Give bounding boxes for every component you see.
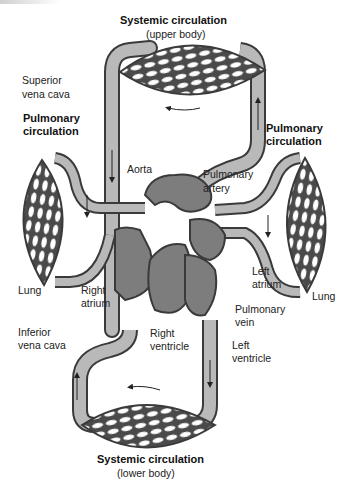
flow-arrow-left-lower bbox=[130, 386, 160, 390]
pulmonary-circulation-left-1: Pulmonary bbox=[23, 112, 80, 125]
pulmonary-circulation-right-2: circulation bbox=[266, 135, 322, 148]
left-lung-capillaries bbox=[23, 160, 62, 285]
right-atrium-label-1: Right bbox=[81, 284, 106, 297]
pulmonary-vein-label-2: vein bbox=[235, 316, 254, 329]
lung-left-label: Lung bbox=[18, 284, 41, 297]
aorta-label: Aorta bbox=[127, 163, 152, 176]
heart bbox=[115, 175, 225, 316]
lung-right-label: Lung bbox=[312, 290, 335, 303]
pulmonary-circulation-right-1: Pulmonary bbox=[266, 122, 323, 135]
inferior-vena-cava-label-2: vena cava bbox=[18, 339, 66, 352]
pulmonary-vein-label-1: Pulmonary bbox=[235, 303, 285, 316]
systemic-lower-title: Systemic circulation bbox=[97, 453, 204, 466]
right-atrium-label-2: atrium bbox=[81, 297, 110, 310]
flow-arrow-left bbox=[168, 108, 200, 110]
pulmonary-circulation-left-2: circulation bbox=[23, 125, 79, 138]
left-atrium bbox=[190, 219, 225, 260]
left-atrium-label-2: atrium bbox=[252, 278, 281, 291]
left-ventricle-label-2: ventricle bbox=[232, 352, 271, 365]
pulmonary-artery-label-2: artery bbox=[203, 182, 230, 195]
lower-capillary-bed bbox=[82, 405, 215, 448]
systemic-upper-subtitle: (upper body) bbox=[146, 28, 206, 41]
left-ventricle-label-1: Left bbox=[232, 339, 250, 352]
inferior-vena-cava-label-1: Inferior bbox=[18, 326, 51, 339]
superior-vena-cava-label-1: Superior bbox=[22, 74, 62, 87]
right-ventricle-label-1: Right bbox=[150, 327, 175, 340]
systemic-upper-title: Systemic circulation bbox=[120, 14, 227, 27]
systemic-lower-subtitle: (lower body) bbox=[117, 467, 175, 480]
pulmonary-artery-label-1: Pulmonary bbox=[203, 168, 253, 181]
right-lung-capillaries bbox=[287, 158, 326, 292]
superior-vena-cava-label-2: vena cava bbox=[22, 88, 70, 101]
left-atrium-label-1: Left bbox=[252, 265, 270, 278]
aorta-arch bbox=[145, 175, 211, 212]
left-ventricle bbox=[185, 255, 216, 315]
right-ventricle-label-2: ventricle bbox=[150, 340, 189, 353]
